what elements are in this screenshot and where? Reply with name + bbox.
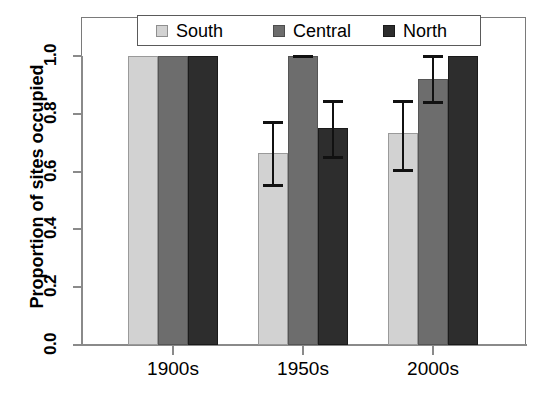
legend-swatch-central-icon [273,25,285,37]
x-tick-mark [172,346,174,355]
y-tick-mark [73,286,82,288]
legend-item-south[interactable]: South [156,20,223,42]
legend-item-north[interactable]: North [383,20,447,42]
x-tick-mark [302,346,304,355]
error-bar-cap-lower [323,156,343,159]
x-tick-label: 1950s [248,358,358,380]
bar-central-1900s [158,56,188,345]
x-tick-mark [432,346,434,355]
y-tick-mark [73,113,82,115]
error-bar-cap-upper [393,100,413,103]
legend-swatch-north-icon [383,25,395,37]
x-tick-label: 1900s [118,358,228,380]
error-bar-cap-lower [263,184,283,187]
chart-figure: 0.00.20.40.60.81.0 Proportion of sites o… [0,0,543,397]
x-tick-label: 2000s [378,358,488,380]
bar-south-1900s [128,56,158,345]
bar-north-2000s [448,56,478,345]
error-bar-cap-upper [423,55,443,58]
legend-label: North [403,21,447,42]
y-tick-mark [73,55,82,57]
y-axis-line [81,56,83,346]
error-bar-cap-upper [263,121,283,124]
legend-swatch-south-icon [156,25,168,37]
y-tick-label: 0.0 [41,331,61,357]
bar-central-1950s [288,56,318,345]
error-bar-cap-upper [323,100,343,103]
error-bar-cap-lower [393,169,413,172]
y-axis-title: Proportion of sites occupied [27,56,48,318]
error-bar-stem [332,101,334,157]
y-tick-mark [73,171,82,173]
legend-label: Central [293,21,351,42]
error-bar-cap-lower [423,101,443,104]
error-bar-stem [432,56,434,102]
bar-north-1950s [318,128,348,345]
bar-central-2000s [418,79,448,345]
y-tick-mark [73,228,82,230]
error-bar-stem [272,122,274,185]
bar-north-1900s [188,56,218,345]
error-bar-stem [402,101,404,170]
legend-item-central[interactable]: Central [273,20,351,42]
legend: SouthCentralNorth [137,15,481,46]
legend-label: South [176,21,223,42]
error-bar-cap-lower [293,55,313,58]
